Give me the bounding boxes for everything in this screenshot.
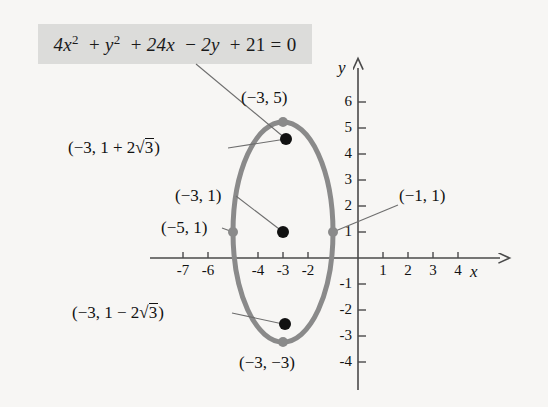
- label-bottom-vertex: (−3, −3): [239, 353, 295, 373]
- label-upper-focus-prefix: (−3, 1 + 2: [68, 138, 135, 157]
- sqrt-icon: √: [139, 303, 148, 322]
- y-tick-label-5: 5: [336, 119, 352, 136]
- label-right-covertex: (−1, 1): [399, 186, 445, 206]
- label-lower-focus-radicand: 3: [149, 303, 159, 322]
- leader-center: [236, 196, 283, 232]
- marker-upper-focus: [280, 133, 292, 145]
- sqrt-icon: √: [135, 138, 144, 157]
- y-tick-label-2: 2: [336, 197, 352, 214]
- x-axis: [150, 252, 500, 258]
- y-tick-label-1: 1: [336, 223, 352, 240]
- x-axis-label: x: [470, 262, 478, 282]
- figure-canvas: 4x2 + y2 + 24x − 2y + 21 = 0: [0, 0, 548, 407]
- label-upper-focus: (−3, 1 + 2√3): [68, 138, 160, 158]
- marker-center: [277, 226, 289, 238]
- y-axis-label: y: [338, 58, 346, 78]
- y-tick-label--2: -2: [328, 301, 352, 318]
- y-tick-label-4: 4: [336, 145, 352, 162]
- y-axis-ticks: [358, 102, 366, 362]
- y-tick-label--3: -3: [328, 327, 352, 344]
- x-tick-label--4: -4: [248, 262, 268, 279]
- label-lower-focus-prefix: (−3, 1 − 2: [72, 303, 139, 322]
- marker-bottom-vertex: [278, 337, 288, 347]
- marker-lower-focus: [279, 318, 291, 330]
- x-tick-label--7: -7: [173, 262, 193, 279]
- label-center: (−3, 1): [175, 186, 221, 206]
- x-tick-label-2: 2: [401, 262, 415, 279]
- leader-lower-focus: [232, 313, 283, 324]
- x-tick-label--2: -2: [298, 262, 318, 279]
- y-tick-label--4: -4: [328, 353, 352, 370]
- marker-top-vertex: [278, 117, 288, 127]
- x-tick-label--6: -6: [198, 262, 218, 279]
- y-tick-label-3: 3: [336, 171, 352, 188]
- marker-left-covertex: [228, 227, 238, 237]
- x-tick-label--3: -3: [273, 262, 293, 279]
- y-tick-label-6: 6: [336, 93, 352, 110]
- label-top-vertex: (−3, 5): [241, 88, 287, 108]
- label-upper-focus-suffix: ): [154, 138, 160, 157]
- y-tick-label--1: -1: [328, 275, 352, 292]
- x-tick-label-1: 1: [376, 262, 390, 279]
- point-markers: [228, 117, 338, 347]
- coordinate-plane: [0, 0, 548, 407]
- leader-lines: [196, 64, 398, 324]
- x-axis-ticks: [183, 252, 458, 258]
- label-lower-focus-suffix: ): [158, 303, 164, 322]
- label-left-covertex: (−5, 1): [161, 218, 207, 238]
- y-axis: [358, 68, 366, 390]
- x-tick-label-3: 3: [426, 262, 440, 279]
- label-lower-focus: (−3, 1 − 2√3): [72, 303, 164, 323]
- x-tick-label-4: 4: [451, 262, 465, 279]
- label-upper-focus-radicand: 3: [145, 138, 155, 157]
